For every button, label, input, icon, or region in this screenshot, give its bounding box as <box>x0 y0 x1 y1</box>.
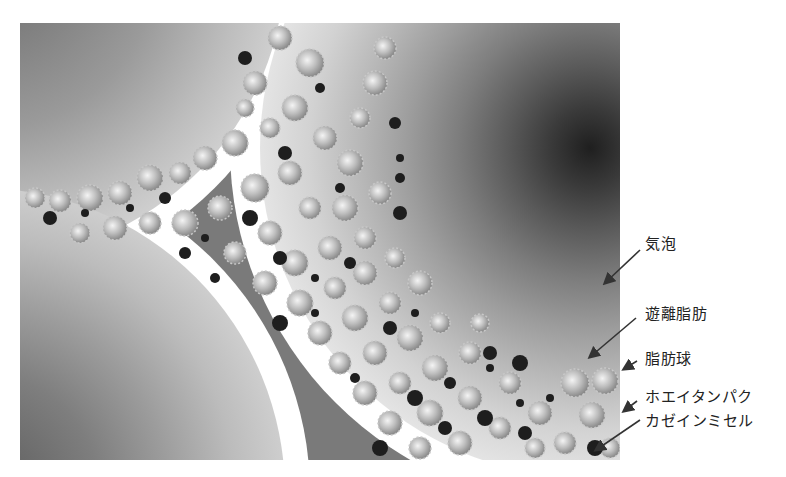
label-whey-protein: ホエイタンパク <box>645 385 753 406</box>
label-casein-micelle: カゼインミセル <box>645 409 754 430</box>
arrow-fat-globule <box>624 361 637 369</box>
label-free-fat: 遊離脂肪 <box>645 302 707 323</box>
whipped-cream-structure-diagram <box>20 23 620 460</box>
structure-illustration <box>20 23 620 460</box>
label-air-bubble: 気泡 <box>645 232 676 253</box>
label-fat-globule: 脂肪球 <box>645 347 692 368</box>
arrow-whey-protein <box>624 401 637 411</box>
